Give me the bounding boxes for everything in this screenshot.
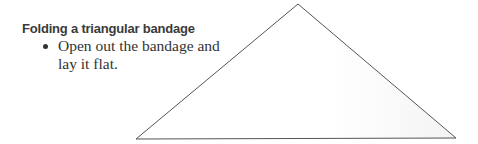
- bandage-triangle: [136, 4, 456, 139]
- triangular-bandage-illustration: [0, 0, 478, 144]
